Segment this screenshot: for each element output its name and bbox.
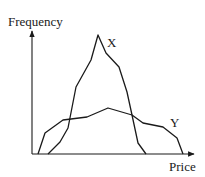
price-frequency-chart: Frequency Price X Y <box>0 0 205 177</box>
series-y-label: Y <box>170 116 179 129</box>
curve-y <box>38 108 183 154</box>
x-axis-label: Price <box>169 160 196 173</box>
curve-x <box>48 35 146 154</box>
y-axis-label: Frequency <box>8 15 63 28</box>
series-x-label: X <box>107 36 116 49</box>
